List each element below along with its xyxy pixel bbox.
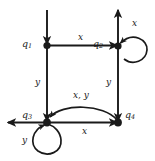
state-label-q2-subscript: 2 — [99, 42, 103, 50]
edge-q3-self-loop — [33, 125, 61, 154]
state-label-q4-subscript: 4 — [131, 113, 135, 121]
state-node-q2[interactable] — [114, 42, 121, 49]
state-label-q1-subscript: 1 — [28, 42, 32, 50]
state-node-q4[interactable] — [114, 119, 122, 127]
state-label-q1: q1 — [22, 39, 32, 50]
state-label-q3: q3 — [22, 110, 32, 121]
edge-label-q2-to-q4: y — [106, 78, 111, 87]
state-label-q4: q4 — [125, 110, 135, 121]
state-node-q1[interactable] — [43, 42, 50, 49]
edge-label-q2-self-loop: x — [132, 19, 137, 28]
state-node-q3[interactable] — [43, 119, 51, 127]
edge-label-q3-to-q4: x — [82, 127, 87, 136]
edge-q4-to-q3-curved — [50, 107, 117, 120]
edge-label-q1-to-q3: y — [35, 78, 40, 87]
state-diagram: q1 q2 q3 q4 x y x y x x, y y — [0, 0, 155, 161]
edge-label-q3-self-loop: y — [22, 136, 27, 145]
edge-label-q4-to-q3: x, y — [73, 91, 89, 100]
state-label-q3-subscript: 3 — [28, 113, 32, 121]
edge-label-q1-to-q2: x — [78, 33, 83, 42]
edge-q2-self-loop — [121, 37, 148, 62]
state-label-q2: q2 — [93, 39, 103, 50]
